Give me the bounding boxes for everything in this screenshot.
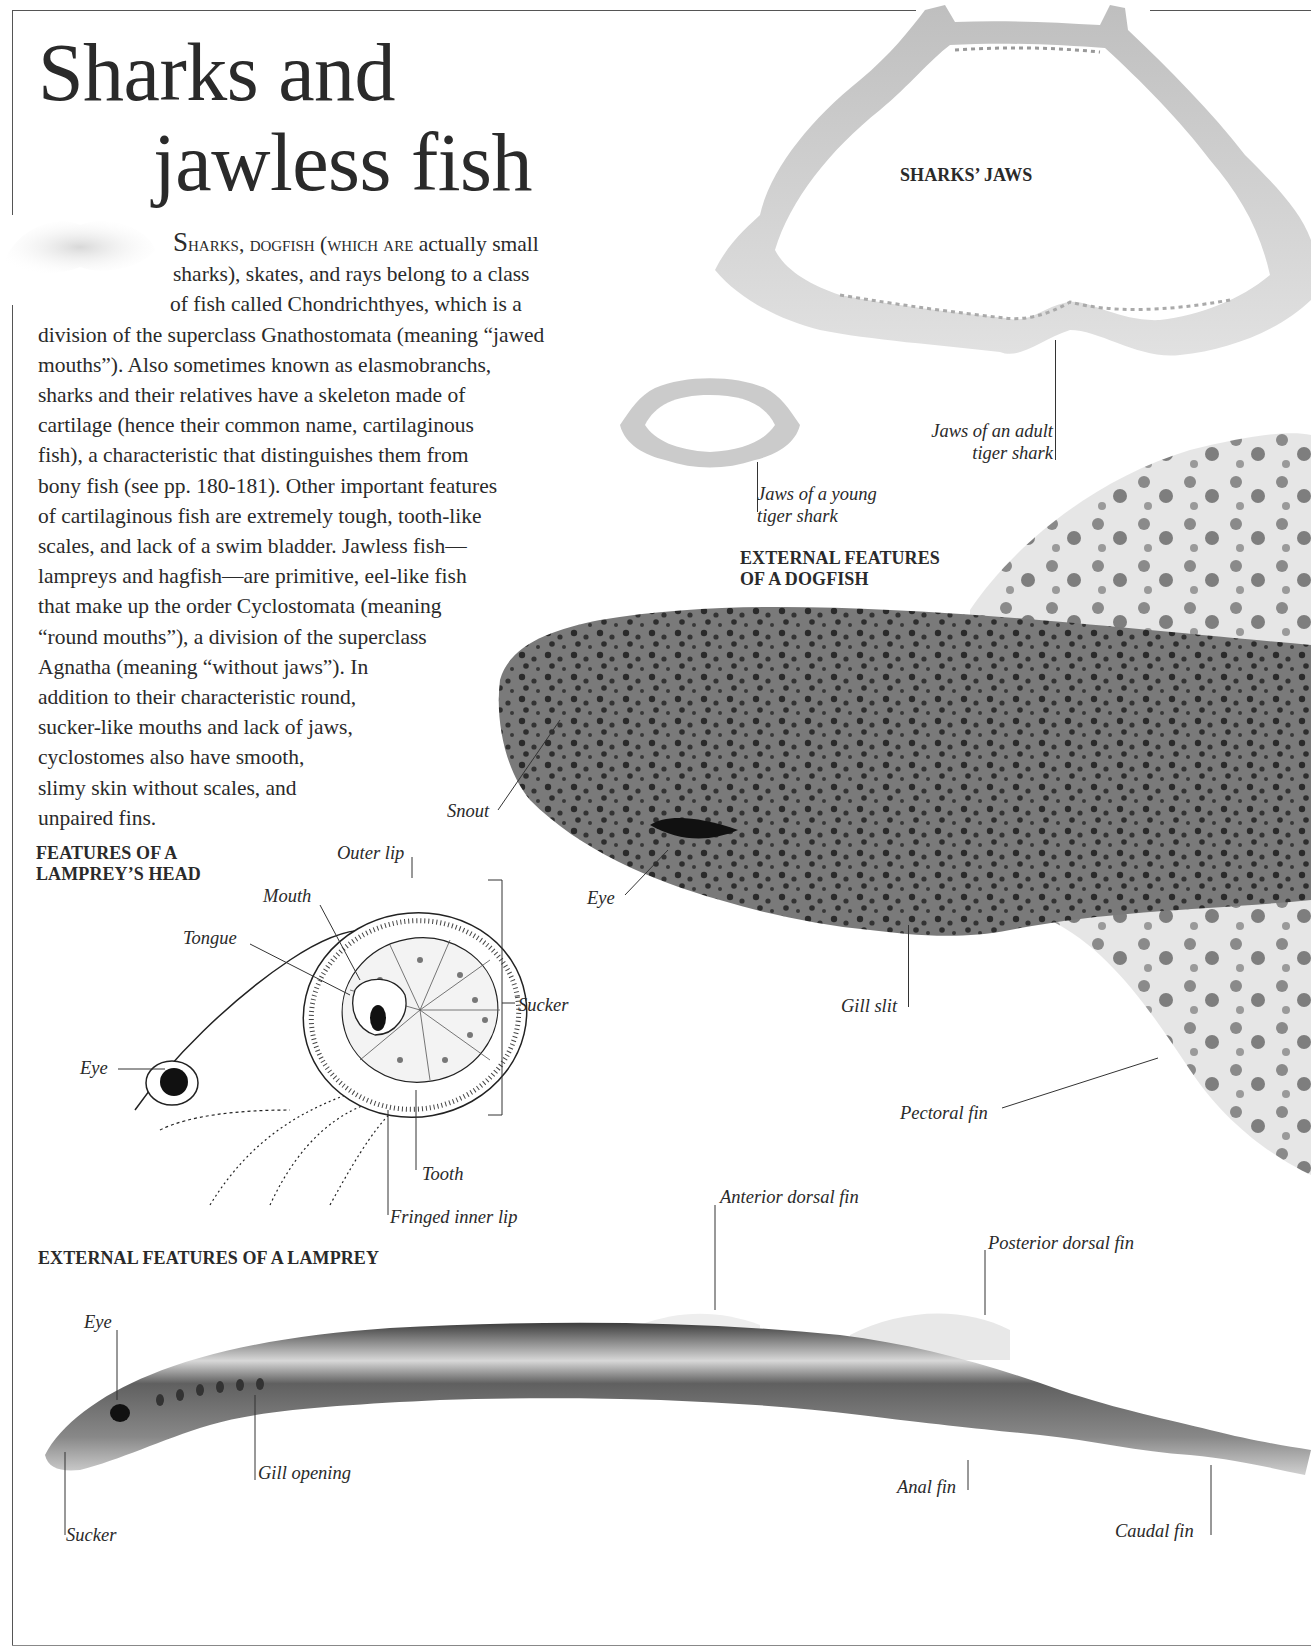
anal-fin-label: Anal fin (897, 1476, 956, 1498)
anterior-dorsal-fin-label: Anterior dorsal fin (720, 1186, 859, 1208)
lamprey-eye-label: Eye (84, 1311, 112, 1333)
posterior-dorsal-fin-label: Posterior dorsal fin (988, 1232, 1134, 1254)
gill-opening-label: Gill opening (258, 1462, 351, 1484)
caudal-fin-label: Caudal fin (1115, 1520, 1194, 1542)
lamprey-leaders (0, 0, 1311, 1652)
lamprey-sucker-label-bottom: Sucker (66, 1524, 116, 1546)
